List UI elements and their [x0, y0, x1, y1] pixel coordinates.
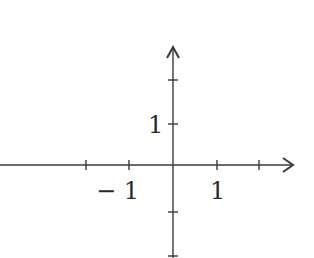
x-axis	[0, 158, 293, 172]
y-axis	[167, 47, 179, 258]
x-label-neg1: − 1	[96, 177, 139, 205]
coordinate-axes-diagram: 1 − 1 1	[0, 0, 314, 258]
x-label-1: 1	[210, 177, 225, 205]
y-label-1: 1	[148, 111, 163, 139]
